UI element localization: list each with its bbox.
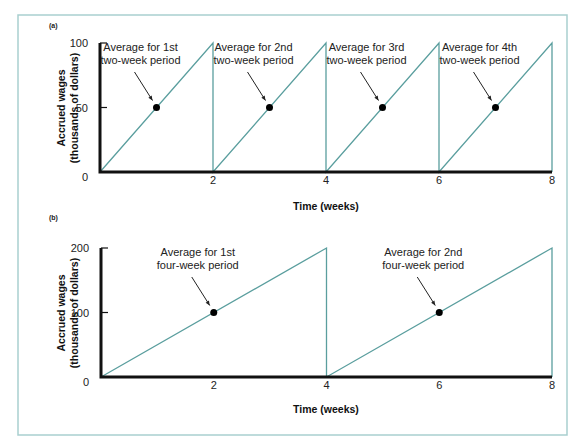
x-axis-label: Time (weeks) (293, 403, 359, 415)
x-tick-label: 2 (211, 379, 217, 391)
x-tick-label: 4 (323, 174, 329, 186)
arrow-line (135, 72, 153, 101)
arrowhead-icon (261, 96, 265, 101)
arrowhead-icon (487, 96, 491, 101)
panel-label: (b) (49, 214, 58, 222)
average-point (153, 104, 160, 111)
average-annotation: Average for 2ndfour-week period (382, 246, 464, 271)
arrowhead-icon (206, 301, 210, 306)
x-axis-label: Time (weeks) (293, 200, 359, 212)
arrow-line (248, 72, 266, 101)
average-point (379, 104, 386, 111)
arrowhead-icon (431, 301, 435, 306)
y-axis-label: Accrued wages(thousands of dollars) (55, 53, 80, 163)
y-tick-label: 200 (71, 242, 89, 254)
arrow-line (192, 277, 210, 306)
panel-label: (a) (49, 22, 58, 30)
average-point (266, 104, 273, 111)
average-annotation: Average for 4thtwo-week period (439, 41, 519, 66)
arrow-line (417, 277, 435, 306)
y-tick-label: 100 (70, 37, 88, 49)
average-point (210, 309, 217, 316)
arrowhead-icon (148, 96, 152, 101)
average-annotation: Average for 3rdtwo-week period (326, 41, 406, 66)
y-axis-label: Accrued wages(thousands of dollars) (55, 258, 80, 368)
chart-panel-a: (a)0501002468Time (weeks)Accrued wages(t… (49, 22, 555, 212)
y-tick-label: 0 (82, 171, 88, 183)
arrow-line (474, 72, 492, 101)
arrow-line (361, 72, 379, 101)
average-annotation: Average for 1sttwo-week period (100, 41, 180, 66)
x-tick-label: 8 (549, 174, 555, 186)
x-tick-label: 6 (436, 379, 442, 391)
figure: (a)0501002468Time (weeks)Accrued wages(t… (0, 0, 587, 445)
x-tick-label: 8 (549, 379, 555, 391)
average-point (492, 104, 499, 111)
chart-panel-b: (b)01002002468Time (weeks)Accrued wages(… (49, 214, 555, 415)
x-tick-label: 4 (323, 379, 329, 391)
average-annotation: Average for 1stfour-week period (157, 246, 239, 271)
y-tick-label: 0 (83, 376, 89, 388)
x-tick-label: 2 (210, 174, 216, 186)
average-annotation: Average for 2ndtwo-week period (213, 41, 293, 66)
arrowhead-icon (374, 96, 378, 101)
average-point (436, 309, 443, 316)
x-tick-label: 6 (436, 174, 442, 186)
